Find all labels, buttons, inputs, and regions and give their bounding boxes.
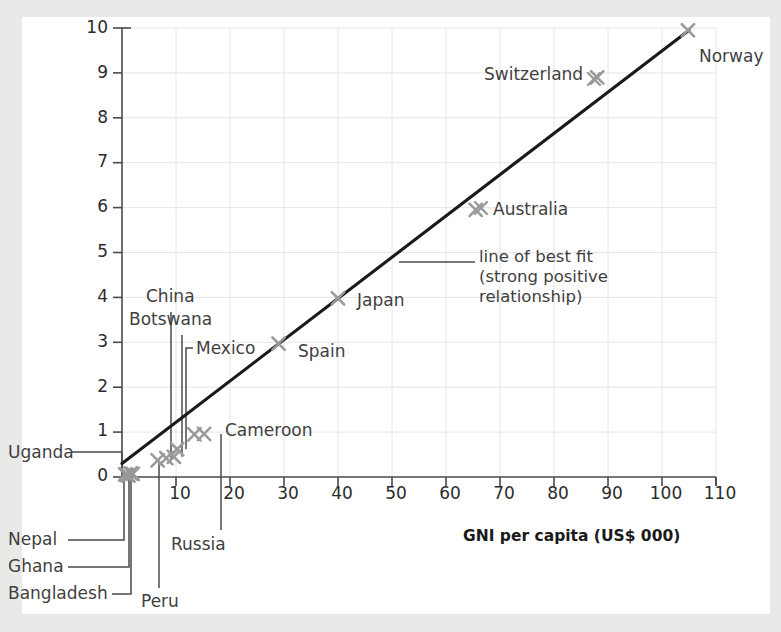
x-tick-label-50: 50: [376, 484, 416, 503]
x-tick-label-90: 90: [592, 484, 632, 503]
y-tick-label-1: 1: [72, 421, 108, 440]
point-label-norway: Norway: [699, 47, 764, 66]
x-tick-label-70: 70: [484, 484, 524, 503]
inline-marker-glyphs: [475, 73, 600, 214]
y-tick-label-3: 3: [72, 332, 108, 351]
marker-norway: [682, 24, 694, 36]
y-tick-label-6: 6: [72, 197, 108, 216]
point-label-japan: Japan: [357, 291, 404, 310]
y-tick-label-4: 4: [72, 287, 108, 306]
point-label-australia: Australia: [493, 200, 568, 219]
x-tick-label-10: 10: [160, 484, 200, 503]
point-label-cameroon: Cameroon: [225, 421, 313, 440]
best-fit-annotation-line1: line of best fit: [479, 247, 593, 266]
x-tick-label-100: 100: [643, 484, 689, 503]
point-label-uganda: Uganda: [8, 443, 74, 462]
x-tick-label-80: 80: [538, 484, 578, 503]
point-label-botswana: Botswana: [129, 310, 212, 329]
gridlines: [122, 28, 716, 477]
axis-lines: [122, 28, 716, 486]
leader-line-7: [112, 476, 131, 594]
best-fit-annotation: line of best fit (strong positive relati…: [479, 247, 608, 307]
x-tick-label-110: 110: [697, 484, 743, 503]
y-tick-label-10: 10: [72, 18, 108, 37]
point-label-peru: Peru: [141, 592, 179, 611]
marker-spain: [272, 337, 284, 349]
leader-line-6: [68, 473, 129, 567]
point-label-nepal: Nepal: [8, 530, 57, 549]
x-tick-label-40: 40: [322, 484, 362, 503]
point-label-russia: Russia: [171, 535, 226, 554]
x-tick-label-60: 60: [430, 484, 470, 503]
y-tick-label-2: 2: [72, 377, 108, 396]
page-root: Health expenditure per capita (US$ 000) …: [0, 0, 781, 632]
point-label-bangladesh: Bangladesh: [8, 584, 108, 603]
marker-peru: [151, 454, 163, 466]
x-tick-label-30: 30: [268, 484, 308, 503]
y-tick-label-7: 7: [72, 152, 108, 171]
point-label-spain: Spain: [298, 342, 346, 361]
point-label-switzerland: Switzerland: [484, 65, 583, 84]
marker-cameroon: [198, 428, 210, 440]
y-tick-label-5: 5: [72, 242, 108, 261]
point-label-china: China: [146, 287, 195, 306]
x-tick-label-20: 20: [214, 484, 254, 503]
x-axis-title: GNI per capita (US$ 000): [463, 528, 680, 546]
leader-line-2: [186, 348, 193, 449]
point-label-mexico: Mexico: [196, 339, 255, 358]
y-tick-label-0: 0: [72, 466, 108, 485]
y-tick-label-8: 8: [72, 108, 108, 127]
y-tick-label-9: 9: [72, 63, 108, 82]
best-fit-annotation-line3: relationship): [479, 287, 582, 306]
point-label-ghana: Ghana: [8, 557, 64, 576]
best-fit-annotation-line2: (strong positive: [479, 267, 608, 286]
y-axis-ticks: [113, 28, 122, 477]
